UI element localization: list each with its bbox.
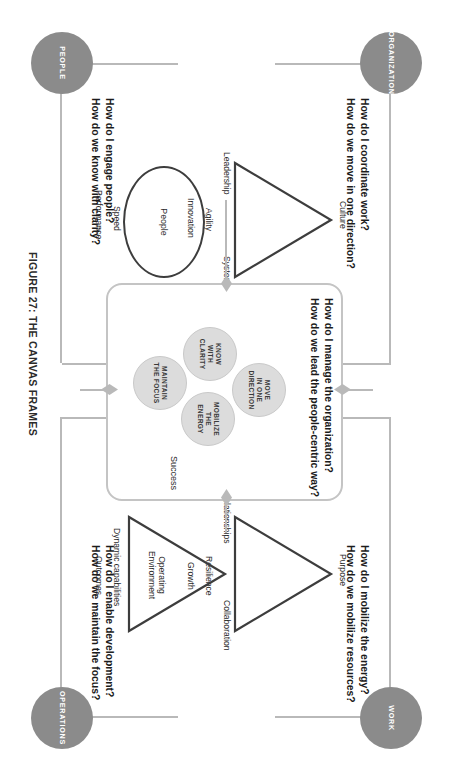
bubble-maintain-text: MAINTAIN THE FOCUS: [152, 363, 168, 404]
node-operations-label: OPERATIONS: [58, 691, 66, 745]
bubble-know-text: KNOW WITH CLARITY: [198, 339, 222, 370]
bubble-know-with-clarity[interactable]: KNOW WITH CLARITY: [183, 327, 237, 381]
label-organization-leadership: Leadership: [221, 152, 231, 195]
label-people-performance: Performance: [93, 190, 103, 239]
question-organization-line2: How do we move in one direction?: [344, 98, 358, 269]
bubble-mobilize-line1: MOBILIZE: [213, 402, 220, 436]
triangle-organization: [231, 158, 335, 282]
label-operations-center-line2: Environment: [146, 540, 156, 610]
node-operations[interactable]: OPERATIONS: [31, 687, 93, 749]
bubble-mobilize-line2: THE: [205, 412, 212, 426]
triangle-work-shape: [231, 512, 335, 636]
bubble-move-line1: MOVE: [264, 380, 271, 401]
bubble-know-line2: WITH: [207, 345, 214, 363]
bubble-move-in-one-direction[interactable]: MOVE IN ONE DIRECTION: [232, 363, 286, 417]
node-people-label: PEOPLE: [58, 46, 66, 79]
bubble-mobilize-the-energy[interactable]: MOBILIZE THE ENERGY: [181, 392, 235, 446]
stub-right: [225, 501, 227, 533]
label-people-center: People: [159, 208, 169, 235]
node-organization[interactable]: ORGANIZATION: [360, 32, 422, 94]
frame-line-top-right-span: [389, 417, 391, 717]
question-organization-line1: How do I coordinate work?: [357, 98, 371, 269]
figure-caption: FIGURE 27: THE CANVAS FRAMES: [27, 252, 39, 436]
bubble-know-line1: KNOW: [215, 343, 222, 365]
question-organization: How do I coordinate work? How do we move…: [344, 98, 371, 269]
rotated-figure-shell: ORGANIZATION WORK PEOPLE OPERATIONS MANA…: [0, 0, 453, 781]
label-organization-apex: Culture: [337, 201, 347, 229]
bubble-move-line2: IN ONE: [256, 378, 263, 403]
node-people[interactable]: PEOPLE: [31, 32, 93, 94]
question-centre: How do I manage the organization? How do…: [308, 298, 335, 497]
label-operations-center: Operating Environment: [146, 540, 167, 610]
triangle-work: [231, 512, 335, 636]
label-work-apex: Purpose: [337, 554, 347, 586]
bubble-move-line3: DIRECTION: [248, 371, 255, 410]
bubble-mobilize-text: MOBILIZE THE ENERGY: [196, 402, 220, 436]
stub-top: [347, 389, 373, 391]
label-success: Success: [169, 456, 179, 490]
node-work-label: WORK: [387, 705, 395, 731]
frame-line-bottom-right-span: [60, 417, 62, 717]
bubble-know-line3: CLARITY: [199, 339, 206, 370]
triangle-operations-shape: [125, 512, 229, 636]
frame-line-bottom-left-span: [60, 63, 62, 363]
label-people-speed: Speed: [111, 206, 121, 231]
triangle-operations: [125, 512, 229, 636]
question-work-line1: How do I mobilize the energy?: [357, 545, 371, 703]
label-operations-outcomes: Outcomes: [93, 556, 103, 595]
bubble-mobilize-line3: ENERGY: [197, 404, 204, 434]
triangle-organization-shape: [231, 158, 335, 282]
bubble-move-text: MOVE IN ONE DIRECTION: [247, 371, 271, 410]
bubble-maintain-line2: THE FOCUS: [153, 363, 160, 404]
ellipse-people: People: [123, 166, 205, 278]
bubble-maintain-the-focus[interactable]: MAINTAIN THE FOCUS: [133, 356, 187, 410]
label-operations-center-line1: Operating: [157, 540, 167, 610]
canvas-frames-diagram: ORGANIZATION WORK PEOPLE OPERATIONS MANA…: [0, 0, 453, 781]
frame-line-top-left-span: [389, 63, 391, 363]
stub-bottom: [80, 389, 106, 391]
stub-left-extend: [225, 200, 227, 256]
bubble-maintain-line1: MAINTAIN: [161, 366, 168, 400]
label-operations-dynamic-capabilities: Dynamic capabilities: [111, 528, 121, 606]
node-organization-label: ORGANIZATION: [387, 31, 395, 94]
question-centre-line2: How do we lead the people-centric way?: [308, 298, 322, 497]
question-centre-line1: How do I manage the organization?: [321, 298, 335, 497]
